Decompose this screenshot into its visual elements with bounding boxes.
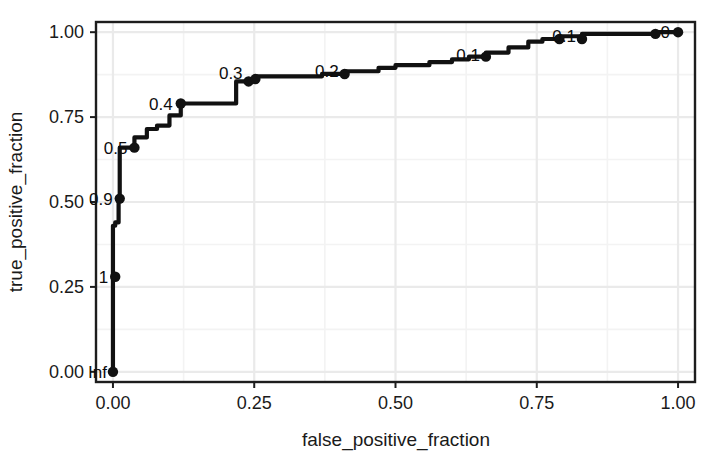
x-tick-label: 0.75 — [519, 393, 554, 413]
x-tick-label: 0.50 — [378, 393, 413, 413]
threshold-label: 0 — [661, 23, 670, 42]
x-tick-label: 1.00 — [661, 393, 696, 413]
threshold-label: 0.1 — [552, 27, 576, 46]
threshold-label: 0.9 — [89, 190, 113, 209]
y-tick-label: 0.00 — [49, 362, 84, 382]
roc-data-point — [129, 142, 139, 152]
x-axis-title: false_positive_fraction — [302, 429, 490, 451]
threshold-label: Inf — [88, 363, 107, 382]
roc-chart-svg: 0.000.250.500.751.00 0.000.250.500.751.0… — [0, 0, 719, 456]
x-tick-label: 0.00 — [95, 393, 130, 413]
threshold-label: 1 — [99, 268, 108, 287]
x-tick-label: 0.25 — [237, 393, 272, 413]
threshold-label: 0.4 — [149, 95, 173, 114]
roc-data-point — [110, 272, 120, 282]
roc-data-point — [650, 29, 660, 39]
y-axis-title: true_positive_fraction — [5, 112, 27, 293]
roc-data-point — [339, 69, 349, 79]
roc-data-point — [481, 51, 491, 61]
threshold-label: 0.3 — [219, 64, 243, 83]
y-tick-label: 0.25 — [49, 277, 84, 297]
threshold-label: 0.1 — [456, 46, 480, 65]
roc-data-point — [577, 34, 587, 44]
threshold-label: 0.2 — [315, 62, 339, 81]
roc-data-point — [250, 74, 260, 84]
y-tick-label: 1.00 — [49, 22, 84, 42]
roc-data-point — [115, 193, 125, 203]
roc-data-point — [673, 27, 683, 37]
threshold-label: 0.5 — [104, 139, 128, 158]
roc-data-point — [108, 367, 118, 377]
y-tick-label: 0.50 — [49, 192, 84, 212]
y-tick-label: 0.75 — [49, 107, 84, 127]
roc-chart: 0.000.250.500.751.00 0.000.250.500.751.0… — [0, 0, 719, 456]
roc-data-point — [176, 98, 186, 108]
